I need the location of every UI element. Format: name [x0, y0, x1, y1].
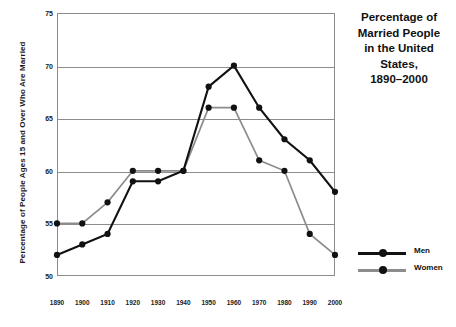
data-point	[130, 168, 136, 174]
data-point	[79, 220, 85, 226]
chart-title-line-1: Married People	[345, 26, 453, 42]
data-point	[281, 168, 287, 174]
plot-area	[57, 13, 335, 276]
data-point	[332, 189, 338, 195]
legend-marker-dot	[379, 266, 387, 274]
y-axis-title: Percentage of People Ages 15 and Over Wh…	[18, 3, 27, 303]
data-point	[281, 136, 287, 142]
y-tick-55: 55	[31, 220, 53, 227]
chart-figure: Percentage of People Ages 15 and Over Wh…	[0, 0, 456, 327]
chart-title-line-3: States,	[345, 57, 453, 73]
data-point	[180, 168, 186, 174]
chart-title-line-2: in the United	[345, 41, 453, 57]
data-point	[155, 178, 161, 184]
x-tick-2000: 2000	[315, 299, 355, 306]
chart-title-line-0: Percentage of	[345, 10, 453, 26]
y-axis-tick-labels: 505560657075	[29, 13, 53, 276]
legend-label: Men	[414, 246, 430, 255]
data-point	[130, 178, 136, 184]
series-men	[54, 63, 338, 259]
data-point	[79, 241, 85, 247]
legend-item-women[interactable]: Women	[358, 262, 454, 279]
data-point	[54, 252, 60, 258]
legend-label: Women	[414, 263, 443, 272]
y-tick-65: 65	[31, 115, 53, 122]
series-line-men	[57, 66, 335, 255]
data-point	[231, 63, 237, 69]
chart-legend: MenWomen	[358, 245, 454, 279]
data-point	[256, 157, 262, 163]
y-tick-60: 60	[31, 167, 53, 174]
data-point	[104, 231, 110, 237]
data-point	[307, 157, 313, 163]
y-tick-50: 50	[31, 273, 53, 280]
x-axis-tick-labels: 1890190019101920193019401950196019701980…	[57, 299, 335, 313]
data-point	[332, 252, 338, 258]
data-point	[155, 168, 161, 174]
data-point	[54, 220, 60, 226]
data-point	[206, 105, 212, 111]
data-point	[104, 199, 110, 205]
y-tick-75: 75	[31, 10, 53, 17]
series-layer	[57, 13, 335, 276]
data-point	[307, 231, 313, 237]
data-point	[206, 84, 212, 90]
data-point	[256, 105, 262, 111]
y-tick-70: 70	[31, 62, 53, 69]
chart-title-line-4: 1890–2000	[345, 72, 453, 88]
data-point	[231, 105, 237, 111]
legend-marker-dot	[379, 249, 387, 257]
chart-title: Percentage ofMarried Peoplein the United…	[345, 10, 453, 88]
legend-item-men[interactable]: Men	[358, 245, 454, 262]
